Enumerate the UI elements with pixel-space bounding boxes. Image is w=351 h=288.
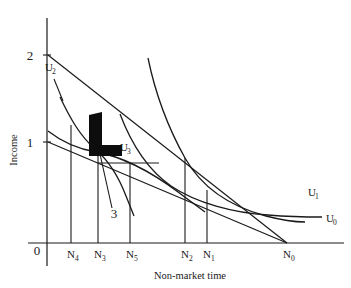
x-axis-title: Non-market time <box>154 270 226 281</box>
curve-label-u3-sub: 3 <box>127 147 131 156</box>
origin-label: 0 <box>34 243 41 258</box>
x-tick-label-n5: N 5 <box>126 248 138 263</box>
x-tick-label-n2: N 2 <box>181 248 193 263</box>
y-tick-label-1: 1 <box>27 135 34 150</box>
y-axis-title: Income <box>8 134 19 166</box>
curve-u2-leader <box>54 79 63 101</box>
x-tick-label-n4: N 4 <box>67 248 79 263</box>
x-tick-label-n2-sub: 2 <box>189 254 193 263</box>
x-tick-label-n3-base: N <box>94 248 102 260</box>
curve-label-u2-sub: 2 <box>52 67 56 76</box>
curve-label-u1: U 1 <box>308 186 319 201</box>
x-tick-label-n1: N 1 <box>203 248 215 263</box>
tangency-block-marker <box>89 112 122 156</box>
x-tick-label-n5-sub: 5 <box>134 254 138 263</box>
figure-canvas: 2 1 0 Income Non-market time N 4 N 3 N 5… <box>0 0 351 288</box>
annotation-label-3: 3 <box>111 206 118 221</box>
x-tick-label-n2-base: N <box>181 248 189 260</box>
x-tick-label-n1-base: N <box>203 248 211 260</box>
curve-u0 <box>120 114 322 217</box>
x-tick-label-n3: N 3 <box>94 248 106 263</box>
curve-label-u0-sub: 0 <box>333 218 337 227</box>
y-tick-label-2: 2 <box>27 48 34 63</box>
indifference-curve-figure: 2 1 0 Income Non-market time N 4 N 3 N 5… <box>0 0 351 288</box>
x-tick-label-n4-base: N <box>67 248 75 260</box>
x-tick-label-n3-sub: 3 <box>102 254 106 263</box>
curve-u1 <box>148 58 305 222</box>
annotation-3-leader <box>100 154 112 208</box>
x-tick-label-n0-sub: 0 <box>291 254 295 263</box>
x-tick-label-n4-sub: 4 <box>75 254 79 263</box>
curve-label-u0: U 0 <box>326 212 337 227</box>
budget-line-low <box>48 142 287 243</box>
x-tick-label-n0: N 0 <box>283 248 295 263</box>
curve-label-u1-sub: 1 <box>315 192 319 201</box>
x-tick-label-n1-sub: 1 <box>211 254 215 263</box>
axis-group <box>28 18 344 266</box>
x-tick-label-n5-base: N <box>126 248 134 260</box>
x-tick-label-n0-base: N <box>283 248 291 260</box>
